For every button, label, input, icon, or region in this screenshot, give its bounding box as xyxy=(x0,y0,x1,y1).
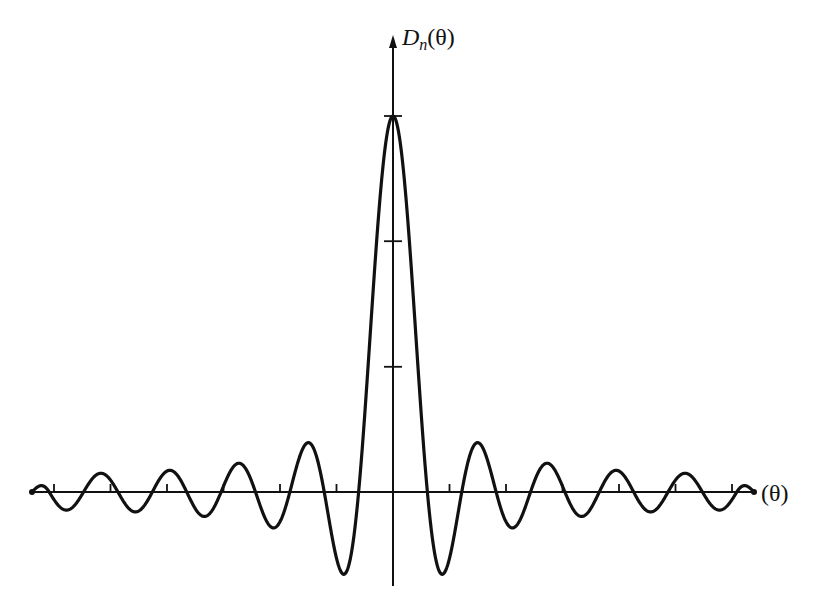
chart-plot-area xyxy=(0,0,823,613)
x-axis-label: (θ) xyxy=(761,481,788,505)
y-axis-label: Dn(θ) xyxy=(402,25,455,53)
y-axis-arrow-icon xyxy=(389,35,397,48)
